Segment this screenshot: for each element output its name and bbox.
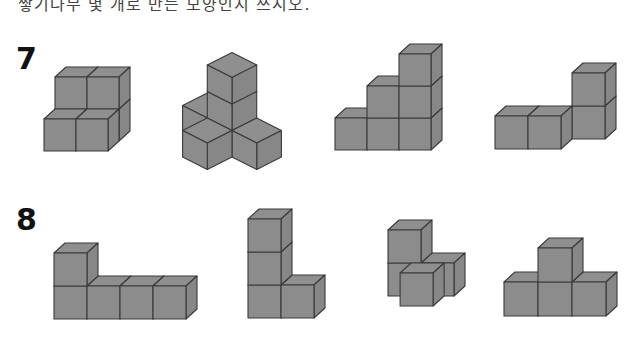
cube-front-face [399,86,431,118]
cube-front-face [55,77,87,109]
figure-7-3 [335,44,442,150]
cube-front-face [367,86,399,118]
cube-front-face [572,282,606,316]
figure-8-1 [54,243,197,319]
cube-front-face [388,230,421,263]
cube-front-face [504,282,538,316]
cube-front-face [54,253,87,286]
figure-8-3 [388,220,465,306]
figure-7-4 [495,63,616,149]
figure-8-2 [248,209,325,318]
cube-front-face [572,73,605,106]
cube-front-face [281,285,314,318]
figure-7-2 [183,52,282,169]
cube-front-face [335,118,367,150]
cube-front-face [120,286,153,319]
cube-front-face [87,77,119,109]
cube-front-face [495,116,528,149]
cube-front-face [54,286,87,319]
cube-front-face [528,116,561,149]
cube-front-face [400,273,433,306]
cube-front-face [572,106,605,139]
cube-front-face [367,118,399,150]
cube-front-face [248,285,281,318]
cube-front-face [87,286,120,319]
cube-front-face [44,119,76,151]
cube-front-face [76,119,108,151]
cube-front-face [399,54,431,86]
cube-figures-canvas [0,0,637,345]
cube-front-face [538,282,572,316]
cube-front-face [248,219,281,252]
cube-front-face [538,248,572,282]
cube-front-face [248,252,281,285]
figure-8-4 [504,238,617,316]
cube-front-face [399,118,431,150]
figure-7-1 [44,67,130,151]
cube-front-face [153,286,186,319]
